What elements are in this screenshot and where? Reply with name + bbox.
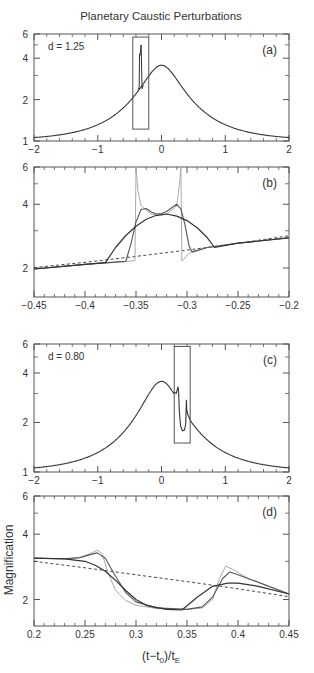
light-curve [34, 65, 289, 137]
y-tick-label: 4 [22, 368, 28, 379]
x-tick-label: −0.45 [21, 300, 47, 311]
x-axis-label: (t−t0)/tE [142, 649, 180, 665]
panel-label: (b) [262, 176, 277, 190]
x-tick-label: 0.25 [75, 629, 95, 640]
x-tick-label: 0.45 [279, 629, 299, 640]
y-tick-label: 4 [22, 529, 28, 540]
series-line-unperturbed [34, 236, 289, 268]
panel-annotation: d = 1.25 [48, 41, 85, 52]
x-tick-label: 0 [159, 144, 165, 155]
y-tick-label: 6 [22, 29, 28, 40]
series-line-medium-source [34, 204, 289, 269]
x-tick-label: −2 [28, 475, 40, 486]
panel-label: (c) [263, 353, 277, 367]
y-tick-label: 2 [22, 95, 28, 106]
plot-frame [34, 496, 289, 626]
x-tick-label: −0.3 [177, 300, 197, 311]
light-curve [34, 381, 289, 468]
x-tick-label: −1 [92, 475, 104, 486]
x-tick-label: 0.4 [231, 629, 245, 640]
panel-a: −2−10121246(a)d = 1.25 [22, 29, 292, 155]
x-tick-label: −0.4 [75, 300, 95, 311]
panel-b: −0.45−0.4−0.35−0.3−0.25−0.2246(b) [21, 162, 299, 311]
y-tick-label: 2 [22, 263, 28, 274]
x-tick-label: −0.35 [123, 300, 149, 311]
y-tick-label: 1 [22, 467, 28, 478]
panel-c: −2−10121246(c)d = 0.80 [22, 339, 292, 486]
panel-label: (a) [262, 43, 277, 57]
figure: Planetary Caustic Perturbations −2−10121… [0, 0, 314, 673]
series-line-medium-source [34, 553, 289, 610]
plot-frame [34, 167, 289, 297]
y-tick-label: 2 [22, 417, 28, 428]
x-tick-label: 1 [222, 144, 228, 155]
x-tick-label: −2 [28, 144, 40, 155]
y-tick-label: 4 [22, 53, 28, 64]
y-tick-label: 4 [22, 199, 28, 210]
x-tick-label: −0.25 [225, 300, 251, 311]
y-tick-label: 2 [22, 595, 28, 606]
x-tick-label: 0.2 [27, 629, 41, 640]
y-tick-label: 6 [22, 339, 28, 350]
series-line-large-source [34, 214, 289, 269]
x-tick-label: 0.3 [129, 629, 143, 640]
x-tick-label: 2 [286, 475, 292, 486]
panel-annotation: d = 0.80 [48, 351, 85, 362]
x-tick-label: 2 [286, 144, 292, 155]
x-tick-label: 0.35 [177, 629, 197, 640]
x-axis-label-main: (t−t [142, 649, 160, 663]
x-tick-label: 1 [222, 475, 228, 486]
zoom-box [174, 346, 190, 443]
panel-label: (d) [262, 505, 277, 519]
plot-frame [34, 344, 289, 472]
y-tick-label: 6 [22, 162, 28, 173]
x-axis-label-mid: )/t [164, 649, 175, 663]
x-tick-label: 0 [159, 475, 165, 486]
perturbation-spike [138, 45, 143, 90]
panel-d: 0.20.250.30.350.40.45246(d) [22, 491, 299, 640]
x-tick-label: −0.2 [279, 300, 299, 311]
x-axis-label-subE: E [175, 656, 180, 665]
x-tick-label: −1 [92, 144, 104, 155]
y-tick-label: 6 [22, 491, 28, 502]
figure-title: Planetary Caustic Perturbations [80, 10, 242, 22]
y-tick-label: 1 [22, 136, 28, 147]
y-axis-label: Magnification [2, 525, 16, 596]
